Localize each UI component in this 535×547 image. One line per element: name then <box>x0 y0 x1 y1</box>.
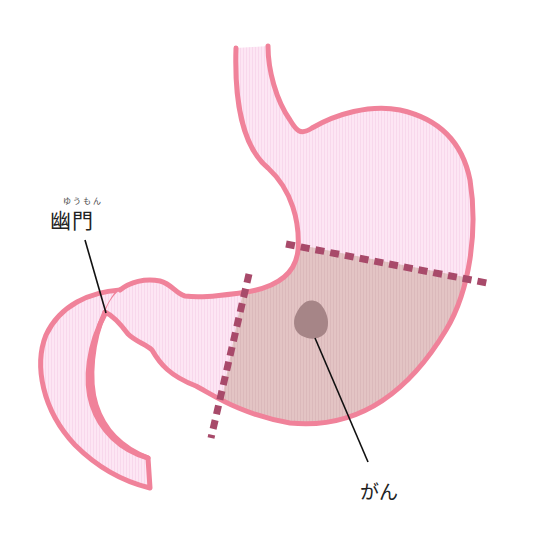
pylorus-label: 幽門 <box>50 204 94 234</box>
stomach-diagram <box>0 0 535 547</box>
cancer-label: がん <box>360 477 398 504</box>
